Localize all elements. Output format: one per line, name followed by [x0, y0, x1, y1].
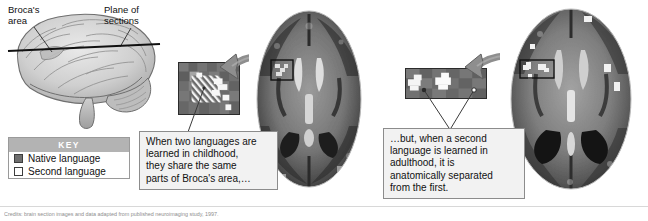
key-item-second-language: Second language	[9, 165, 129, 178]
right-caption-callout: …but, when a second language is learned …	[383, 128, 525, 199]
second-language-leader-dot-icon	[472, 88, 476, 92]
right-inset-leader-lines	[416, 86, 482, 132]
key-legend: KEY Native language Second language	[8, 137, 130, 179]
left-inset-leader-line	[176, 86, 216, 136]
key-item-label: Native language	[28, 153, 100, 164]
brocas-area-label: Broca's area	[8, 4, 39, 26]
second-language-swatch-icon	[14, 167, 23, 176]
native-language-swatch-icon	[14, 154, 23, 163]
native-language-leader-dot-icon	[422, 88, 426, 92]
left-caption-callout: When two languages are learned in childh…	[139, 131, 278, 190]
key-item-native-language: Native language	[9, 152, 129, 165]
key-item-label: Second language	[28, 166, 106, 177]
figure-footnote: Credits: brain section images and data a…	[4, 211, 564, 218]
key-legend-title: KEY	[9, 138, 129, 152]
figure-root: Broca's area Plane of sections KEY Nativ…	[0, 0, 648, 221]
plane-of-sections-label: Plane of sections	[104, 4, 139, 26]
footnote-divider	[0, 206, 648, 207]
